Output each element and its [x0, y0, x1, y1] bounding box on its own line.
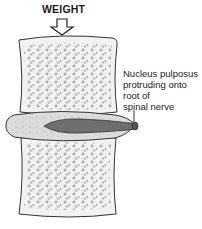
- upper-vertebra: [19, 36, 117, 115]
- nucleus-pulposus-label: Nucleus pulposus protruding onto root of…: [123, 68, 198, 112]
- lower-vertebra: [19, 136, 116, 217]
- spinal-nerve-root: [132, 122, 138, 130]
- down-arrow-icon: [51, 19, 73, 35]
- herniated-disc-illustration: [0, 0, 202, 229]
